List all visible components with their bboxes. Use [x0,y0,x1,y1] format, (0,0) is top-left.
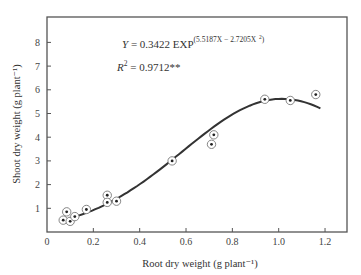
x-tick-label: 0 [45,236,50,247]
fitted-curve [63,99,320,220]
data-point [112,197,120,205]
data-point [168,157,176,165]
data-point [286,96,294,104]
y-tick-label: 8 [35,37,40,48]
y-tick-label: 7 [35,61,40,72]
x-axis: 00.20.40.60.81.01.2 [45,228,332,247]
y-tick-label: 4 [35,132,40,143]
data-point [71,212,79,220]
x-tick-label: 0.8 [226,236,239,247]
y-tick-label: 6 [35,84,40,95]
y-tick-label: 2 [35,179,40,190]
data-point [210,131,218,139]
data-point [312,90,320,98]
x-tick-label: 0.6 [180,236,193,247]
r-squared-label: R2 = 0.9712** [116,59,180,73]
data-point [261,95,269,103]
y-axis-title: Shoot dry weight (g plant⁻¹) [11,64,23,184]
y-axis: 12345678 [35,37,51,214]
y-tick-label: 3 [35,155,40,166]
x-tick-label: 1.2 [319,236,332,247]
y-tick-label: 1 [35,203,40,214]
plot-frame [47,17,347,232]
x-tick-label: 0.4 [133,236,146,247]
data-point [207,140,215,148]
x-axis-title: Root dry weight (g plant⁻¹) [142,258,258,270]
y-tick-label: 5 [35,108,40,119]
chart: 00.20.40.60.81.01.2 12345678 Y = 0.3422 … [0,0,361,275]
data-point [62,208,70,216]
x-tick-label: 0.2 [87,236,100,247]
data-point [82,205,90,213]
data-points [59,90,320,225]
equation-label: Y = 0.3422 EXP(5.5187X − 2.7205X 2) [122,32,265,50]
data-point [103,198,111,206]
x-tick-label: 1.0 [272,236,285,247]
